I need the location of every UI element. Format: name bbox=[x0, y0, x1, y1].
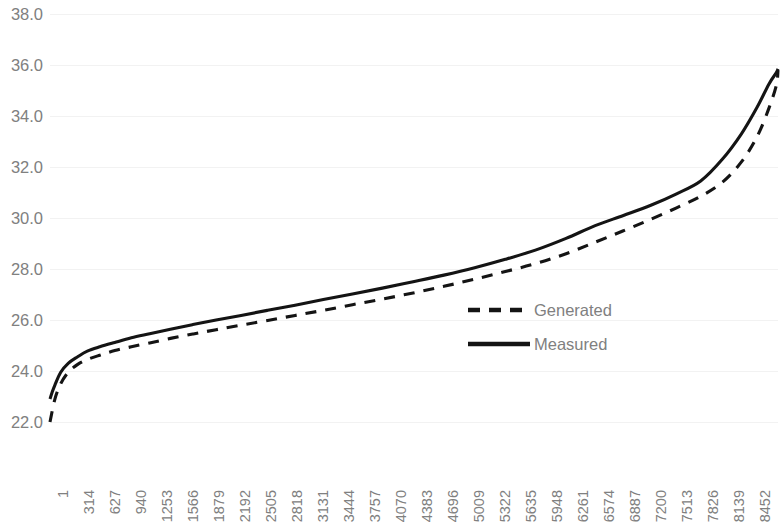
x-axis-tick-label: 4383 bbox=[420, 490, 435, 522]
x-axis: 1314627940125315661879219225052818313134… bbox=[50, 424, 778, 493]
y-axis-tick-label: 26.0 bbox=[11, 312, 43, 329]
x-axis-tick-label: 1879 bbox=[212, 490, 227, 522]
legend-label-generated: Generated bbox=[534, 302, 612, 319]
x-axis-tick-label: 6574 bbox=[602, 490, 617, 522]
x-axis-tick-label: 6261 bbox=[576, 490, 591, 522]
y-axis-tick-label: 38.0 bbox=[11, 6, 43, 23]
legend-label-measured: Measured bbox=[534, 336, 607, 353]
x-axis-tick-label: 314 bbox=[82, 490, 97, 514]
y-axis-tick-label: 32.0 bbox=[11, 159, 43, 176]
x-axis-tick-label: 4696 bbox=[446, 490, 461, 522]
series-line-generated bbox=[50, 70, 778, 422]
x-axis-tick-label: 5322 bbox=[498, 490, 513, 522]
y-axis: 38.036.034.032.030.028.026.024.022.0 bbox=[0, 0, 48, 493]
x-axis-tick-label: 5948 bbox=[550, 490, 565, 522]
x-axis-tick-label: 627 bbox=[108, 490, 123, 514]
y-axis-tick-label: 36.0 bbox=[11, 57, 43, 74]
legend-item-measured: Measured bbox=[466, 327, 676, 361]
y-axis-tick-label: 34.0 bbox=[11, 108, 43, 125]
x-axis-tick-label: 2818 bbox=[290, 490, 305, 522]
y-axis-tick-label: 28.0 bbox=[11, 261, 43, 278]
chart-legend: Generated Measured bbox=[466, 293, 676, 361]
x-axis-tick-label: 5009 bbox=[472, 490, 487, 522]
x-axis-tick-label: 2192 bbox=[238, 490, 253, 522]
x-axis-tick-label: 7826 bbox=[706, 490, 721, 522]
legend-swatch-solid-line-icon bbox=[466, 337, 532, 351]
y-axis-tick-label: 30.0 bbox=[11, 210, 43, 227]
x-axis-tick-label: 1566 bbox=[186, 490, 201, 522]
x-axis-tick-label: 8139 bbox=[732, 490, 747, 522]
x-axis-tick-label: 4070 bbox=[394, 490, 409, 522]
gridline bbox=[50, 422, 778, 423]
x-axis-tick-label: 1253 bbox=[160, 490, 175, 522]
y-axis-tick-label: 24.0 bbox=[11, 363, 43, 380]
x-axis-tick-label: 6887 bbox=[628, 490, 643, 522]
x-axis-tick-label: 3444 bbox=[342, 490, 357, 522]
legend-item-generated: Generated bbox=[466, 293, 676, 327]
x-axis-tick-label: 8452 bbox=[758, 490, 773, 522]
x-axis-tick-label: 7200 bbox=[654, 490, 669, 522]
y-axis-tick-label: 22.0 bbox=[11, 414, 43, 431]
x-axis-tick-label: 5635 bbox=[524, 490, 539, 522]
legend-swatch-dashed-line-icon bbox=[466, 303, 532, 317]
x-axis-tick-label: 7513 bbox=[680, 490, 695, 522]
x-axis-tick-label: 3131 bbox=[316, 490, 331, 522]
x-axis-tick-label: 940 bbox=[134, 490, 149, 514]
x-axis-tick-label: 3757 bbox=[368, 490, 383, 522]
x-axis-tick-label: 2505 bbox=[264, 490, 279, 522]
x-axis-tick-label: 1 bbox=[56, 490, 71, 498]
